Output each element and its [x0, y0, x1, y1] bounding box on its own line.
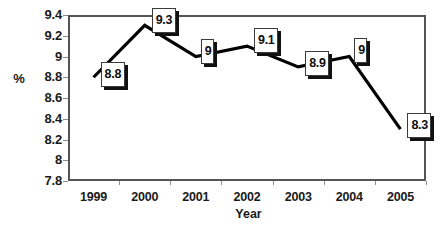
- x-axis-tick-mark: [273, 181, 274, 185]
- x-axis-title: Year: [0, 207, 443, 221]
- data-point-label: 9: [354, 38, 367, 63]
- x-axis-tick-mark: [170, 181, 171, 185]
- x-axis-tick-mark: [221, 181, 222, 185]
- x-axis-tick-label: 1999: [67, 190, 121, 204]
- x-axis-tick-label: 2001: [169, 190, 223, 204]
- x-axis-tick-mark: [426, 181, 427, 185]
- x-axis-tick-mark: [324, 181, 325, 185]
- data-point-label: 9: [201, 39, 214, 64]
- data-point-label: 8.9: [305, 51, 329, 76]
- line-chart: % 9.49.298.88.68.48.287.8 19992000200120…: [0, 0, 443, 235]
- data-point-label: 8.8: [101, 62, 125, 87]
- x-axis-tick-label: 2005: [373, 190, 427, 204]
- x-axis-tick-label: 2004: [322, 190, 376, 204]
- x-axis-tick-label: 2002: [220, 190, 274, 204]
- x-axis-tick-mark: [119, 181, 120, 185]
- x-axis-tick-mark: [375, 181, 376, 185]
- data-point-label: 8.3: [407, 113, 431, 138]
- data-point-label: 9.1: [254, 28, 278, 53]
- x-axis-tick-label: 2000: [118, 190, 172, 204]
- data-point-label: 9.3: [152, 8, 176, 33]
- x-axis-tick-label: 2003: [271, 190, 325, 204]
